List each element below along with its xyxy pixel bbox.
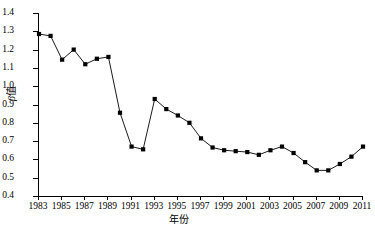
data-point-marker [315, 168, 319, 172]
x-tick-label: 2007 [306, 201, 325, 212]
y-tick-label: 1.3 [2, 26, 14, 36]
x-axis: 1983198519871989199119931995199719992001… [0, 201, 375, 214]
y-axis-title: β值 [6, 79, 17, 109]
x-tick-label: 1995 [167, 201, 186, 212]
data-point-marker [268, 148, 272, 152]
x-tick-label: 1985 [52, 201, 71, 212]
data-point-marker [280, 144, 284, 148]
y-tick-label: 1.1 [2, 63, 14, 73]
data-point-marker [60, 58, 64, 62]
y-tick-label: 0.8 [2, 118, 14, 128]
data-point-marker [326, 168, 330, 172]
x-tick-mark [131, 196, 132, 200]
data-point-marker [338, 162, 342, 166]
x-tick-mark [362, 196, 363, 200]
x-tick-mark [177, 196, 178, 200]
y-tick-label: 0.7 [2, 136, 14, 146]
chart-figure: ········································… [0, 0, 375, 231]
data-point-marker [164, 107, 168, 111]
data-point-marker [257, 153, 261, 157]
data-point-marker [83, 62, 87, 66]
x-axis-title-label: 年份 [169, 214, 189, 225]
data-point-marker [141, 147, 145, 151]
top-bleed-text: ········································… [0, 0, 375, 7]
data-point-marker [210, 145, 214, 149]
data-point-marker [234, 149, 238, 153]
data-point-marker [129, 144, 133, 148]
y-tick-label: 0.6 [2, 154, 14, 164]
data-point-marker [222, 148, 226, 152]
x-tick-label: 2011 [353, 201, 372, 212]
plot-area [38, 13, 363, 197]
x-tick-label: 2005 [283, 201, 302, 212]
data-point-marker [361, 144, 365, 148]
x-tick-label: 2009 [329, 201, 348, 212]
x-tick-mark [107, 196, 108, 200]
x-tick-label: 1983 [29, 201, 48, 212]
x-tick-mark [84, 196, 85, 200]
x-tick-label: 1993 [144, 201, 163, 212]
x-tick-mark [316, 196, 317, 200]
series-markers [37, 32, 365, 173]
x-tick-mark [38, 196, 39, 200]
x-tick-mark [246, 196, 247, 200]
series-line [39, 34, 363, 170]
x-tick-mark [223, 196, 224, 200]
y-tick-label: 0.5 [2, 173, 14, 183]
data-point-marker [303, 160, 307, 164]
data-point-marker [187, 121, 191, 125]
x-tick-label: 2003 [260, 201, 279, 212]
x-tick-label: 2001 [237, 201, 256, 212]
x-tick-mark [200, 196, 201, 200]
y-axis-title-suffix: 值 [6, 86, 17, 96]
x-tick-mark [339, 196, 340, 200]
x-tick-label: 1997 [191, 201, 210, 212]
data-point-marker [245, 150, 249, 154]
x-tick-label: 1999 [214, 201, 233, 212]
x-tick-mark [293, 196, 294, 200]
data-point-marker [291, 151, 295, 155]
data-series-beta [39, 13, 363, 196]
data-point-marker [72, 48, 76, 52]
data-point-marker [199, 136, 203, 140]
y-axis-title-symbol: β [6, 96, 17, 101]
y-tick-label: 1.2 [2, 45, 14, 55]
x-tick-label: 1987 [75, 201, 94, 212]
data-point-marker [95, 57, 99, 61]
data-point-marker [176, 113, 180, 117]
data-point-marker [37, 32, 41, 36]
x-tick-label: 1989 [98, 201, 117, 212]
data-point-marker [153, 97, 157, 101]
y-tick-label: 1.4 [2, 8, 14, 18]
x-tick-mark [269, 196, 270, 200]
x-tick-label: 1991 [121, 201, 140, 212]
data-point-marker [118, 111, 122, 115]
data-point-marker [106, 55, 110, 59]
data-point-marker [349, 155, 353, 159]
x-tick-mark [61, 196, 62, 200]
x-axis-title: 年份 [0, 214, 375, 226]
data-point-marker [48, 34, 52, 38]
x-tick-mark [154, 196, 155, 200]
